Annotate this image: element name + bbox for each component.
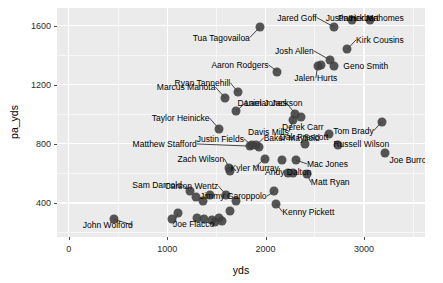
- gridline-horizontal: [57, 202, 425, 203]
- data-point: [377, 117, 386, 126]
- point-label: John Wolford: [83, 221, 133, 230]
- scatter-plot-figure: pa_yds yds 40080012001600 0100020003000 …: [0, 0, 443, 283]
- point-label: Joe Flacco: [173, 220, 214, 229]
- point-label: Kenny Pickett: [282, 208, 334, 217]
- x-tick-label: 1000: [137, 244, 197, 254]
- data-point: [380, 148, 389, 157]
- x-tick-label: 2000: [236, 244, 296, 254]
- plot-panel: Tua TagovailoaJared GoffJustin HerbertPa…: [57, 8, 425, 237]
- data-point: [215, 125, 224, 134]
- point-label: Matthew Stafford: [133, 140, 197, 149]
- gridline-horizontal: [57, 84, 425, 85]
- x-tick-mark: [167, 237, 168, 240]
- data-point: [221, 94, 230, 103]
- data-point: [278, 156, 287, 165]
- x-tick-mark: [364, 237, 365, 240]
- data-point: [255, 23, 264, 32]
- point-label: Matt Ryan: [311, 178, 350, 187]
- data-point: [174, 209, 183, 218]
- data-point: [234, 88, 243, 97]
- gridline-vertical: [413, 8, 414, 237]
- gridline-horizontal: [57, 25, 425, 26]
- point-label: Josh Allen: [275, 47, 314, 56]
- point-label: Derek Carr: [282, 123, 324, 132]
- gridline-horizontal: [57, 114, 425, 115]
- point-label: Aaron Rodgers: [211, 61, 268, 70]
- gridline-horizontal: [57, 232, 425, 233]
- point-label: Jalen Hurts: [294, 74, 337, 83]
- data-point: [232, 107, 241, 116]
- point-label: Sam Darnold: [132, 180, 182, 189]
- data-point: [343, 45, 352, 54]
- point-label: Tom Brady: [333, 126, 374, 135]
- point-label: Andy Dalton: [265, 168, 311, 177]
- point-label: Jared Goff: [277, 13, 317, 22]
- data-point: [272, 199, 281, 208]
- data-point: [330, 23, 339, 32]
- x-tick-mark: [69, 237, 70, 240]
- y-tick-label: 1200: [17, 80, 51, 90]
- x-tick-label: 0: [39, 244, 99, 254]
- data-point: [330, 61, 339, 70]
- point-label: Geno Smith: [343, 61, 388, 70]
- data-point: [218, 217, 227, 226]
- point-label: Mac Jones: [307, 160, 348, 169]
- point-label: Joe Burrow: [390, 156, 425, 165]
- point-label: Jimmy Garoppolo: [200, 192, 267, 201]
- gridline-horizontal: [57, 173, 425, 174]
- point-label: Justin Fields: [197, 135, 244, 144]
- x-axis-title: yds: [57, 264, 425, 276]
- gridline-horizontal: [57, 55, 425, 56]
- point-label: Zach Wilson: [178, 154, 225, 163]
- data-point: [273, 67, 282, 76]
- x-tick-label: 3000: [334, 244, 394, 254]
- point-label: Dak Prescott: [280, 133, 329, 142]
- point-label: Kirk Cousins: [356, 36, 404, 45]
- y-tick-label: 1600: [17, 21, 51, 31]
- point-label: Russell Wilson: [333, 140, 389, 149]
- point-label: Marcus Mariota: [157, 83, 216, 92]
- point-label: Patrick Mahomes: [338, 14, 404, 23]
- data-point: [226, 207, 235, 216]
- x-tick-mark: [266, 237, 267, 240]
- data-point: [245, 142, 254, 151]
- point-label: Daniel Jones: [238, 99, 287, 108]
- point-label: Taylor Heinicke: [152, 114, 210, 123]
- y-tick-label: 400: [17, 198, 51, 208]
- point-label: Tua Tagovailoa: [193, 33, 250, 42]
- gridline-vertical: [216, 8, 217, 237]
- data-point: [313, 61, 322, 70]
- gridline-vertical: [118, 8, 119, 237]
- data-point: [270, 187, 279, 196]
- data-point: [292, 156, 301, 165]
- y-tick-label: 800: [17, 139, 51, 149]
